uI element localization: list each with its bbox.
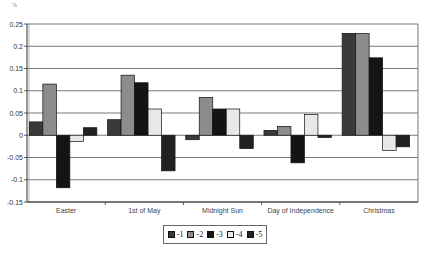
bar-lag3 bbox=[369, 58, 383, 135]
y-tick-label: -0.05 bbox=[7, 154, 23, 161]
legend-item: -3 bbox=[207, 230, 223, 239]
legend-label: -2 bbox=[196, 230, 203, 239]
bar-lag1 bbox=[186, 135, 200, 139]
legend-swatch bbox=[247, 231, 254, 238]
bar-lag2 bbox=[199, 97, 213, 135]
bar-lag1 bbox=[264, 130, 278, 135]
legend-swatch bbox=[227, 231, 234, 238]
bar-lag3 bbox=[56, 135, 70, 188]
bar-lag4 bbox=[148, 109, 162, 135]
bar-lag1 bbox=[342, 33, 356, 135]
x-category-label: Easter bbox=[56, 207, 77, 214]
bar-lag5 bbox=[240, 135, 254, 148]
bar-lag5 bbox=[162, 135, 176, 171]
x-category-label: Christmas bbox=[363, 207, 395, 214]
bar-lag4 bbox=[383, 135, 397, 150]
bar-lag2 bbox=[121, 75, 135, 135]
bar-lag2 bbox=[277, 126, 291, 135]
bar-lag4 bbox=[226, 109, 240, 135]
y-tick-label: 0.25 bbox=[9, 21, 23, 28]
bar-lag5 bbox=[396, 135, 410, 147]
y-tick-label: 0.05 bbox=[9, 110, 23, 117]
bar-lag5 bbox=[318, 135, 332, 137]
legend-label: -1 bbox=[177, 230, 184, 239]
y-tick-label: -0.1 bbox=[11, 176, 23, 183]
legend-label: -3 bbox=[216, 230, 223, 239]
y-tick-label: 0.2 bbox=[13, 43, 23, 50]
y-tick-label: 0 bbox=[19, 132, 23, 139]
y-tick-label: 0.15 bbox=[9, 65, 23, 72]
bar-lag1 bbox=[108, 120, 122, 136]
legend-item: -5 bbox=[247, 230, 263, 239]
bar-lag2 bbox=[356, 33, 370, 135]
bar-lag3 bbox=[291, 135, 305, 163]
legend-swatch bbox=[187, 231, 194, 238]
bar-lag2 bbox=[43, 84, 57, 135]
legend-item: -4 bbox=[227, 230, 243, 239]
bar-chart: 0.250.20.150.10.050-0.05-0.1-0.15Easter1… bbox=[0, 0, 426, 253]
bar-lag5 bbox=[83, 128, 97, 136]
legend-label: -4 bbox=[236, 230, 243, 239]
legend-item: -2 bbox=[187, 230, 203, 239]
bar-lag4 bbox=[304, 114, 318, 135]
bar-lag3 bbox=[135, 83, 149, 136]
legend-swatch bbox=[168, 231, 175, 238]
bar-lag3 bbox=[213, 109, 227, 135]
chart-legend: -1-2-3-4-5 bbox=[163, 225, 267, 244]
y-tick-label: 0.1 bbox=[13, 87, 23, 94]
bar-lag4 bbox=[70, 135, 84, 141]
x-category-label: Midnight Sun bbox=[202, 207, 243, 215]
legend-swatch bbox=[207, 231, 214, 238]
bar-lag1 bbox=[29, 122, 42, 135]
legend-item: -1 bbox=[168, 230, 184, 239]
y-tick-label: -0.15 bbox=[7, 199, 23, 206]
legend-label: -5 bbox=[256, 230, 263, 239]
x-category-label: Day of Independence bbox=[267, 207, 334, 215]
x-category-label: 1st of May bbox=[128, 207, 161, 215]
